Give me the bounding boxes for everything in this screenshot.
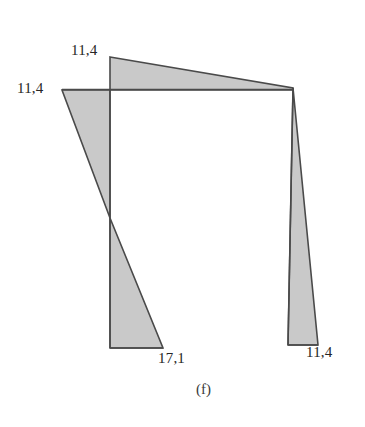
- left-column-lower-moment-area: [110, 218, 163, 348]
- beam-moment-area: [110, 57, 293, 90]
- figure-caption: (f): [196, 381, 211, 397]
- left-column-base-moment-label: 17,1: [158, 350, 185, 366]
- moment-diagram-figure: 11,4 11,4 17,1 11,4 (f): [0, 0, 365, 427]
- right-column-base-moment-label: 11,4: [306, 344, 333, 360]
- column-top-moment-label: 11,4: [17, 80, 44, 96]
- beam-left-end-moment-label: 11,4: [71, 42, 98, 58]
- left-column-upper-moment-area: [62, 90, 110, 218]
- moment-area-group: [62, 57, 318, 348]
